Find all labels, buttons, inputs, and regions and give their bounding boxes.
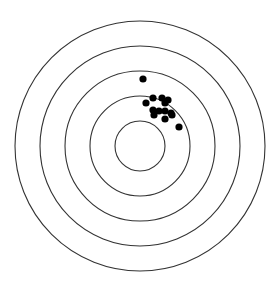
shot-dot (168, 111, 175, 118)
background (0, 0, 275, 282)
shot-dot (139, 75, 146, 82)
shot-dot (175, 123, 182, 130)
shot-dot (142, 99, 149, 106)
shot-dot (150, 111, 157, 118)
shot-dot (161, 115, 168, 122)
target-diagram (0, 0, 275, 282)
shot-dot (149, 94, 156, 101)
shot-dot (161, 99, 168, 106)
